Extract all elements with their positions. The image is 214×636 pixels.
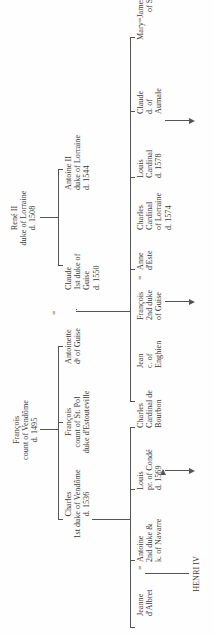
sibling-bar-bourbon — [130, 428, 131, 628]
node-jean-enghien: Jeanc. ofEnghien — [136, 328, 164, 368]
connector — [130, 489, 135, 490]
sibling-bar-lorraine — [58, 170, 59, 266]
arrow-head-icon — [189, 299, 195, 305]
connector — [58, 346, 63, 347]
genealogy-diagram: Françoiscount of Vendômed. 1495 René IId… — [0, 0, 214, 636]
connector — [40, 429, 58, 430]
connector — [76, 309, 77, 310]
connector — [130, 177, 135, 178]
connector — [130, 111, 135, 112]
connector — [130, 560, 135, 561]
connector — [130, 627, 135, 628]
marriage-symbol: = — [136, 275, 145, 280]
connector — [130, 37, 135, 38]
marriage-symbol: = — [136, 565, 145, 570]
connector — [130, 427, 135, 428]
sibling-bar-vendome — [58, 347, 59, 520]
node-jeanne-albret: Jeanned'Albret — [136, 576, 154, 616]
descent-line-henri — [145, 573, 189, 574]
node-antoine-ii: Antoine IIduke of Lorrained. 1544 — [64, 120, 92, 190]
node-charles-lorraine: CharlesCardinalof Lorrained. 1574 — [136, 180, 173, 230]
connector — [58, 169, 63, 170]
connector — [130, 269, 135, 270]
node-rene-ii: René IIduke of Lorrained. 1508 — [10, 172, 38, 264]
node-louis-conde: Louispr. of Condéd. 1569 — [136, 434, 164, 490]
descent-line — [92, 519, 130, 520]
continuation-arrow-line — [165, 301, 189, 302]
node-mary: Mary=James V of Scotland — [136, 68, 154, 88]
arrow-head-icon — [189, 118, 195, 124]
continuation-arrow-line — [165, 120, 189, 121]
node-anne-este: Anned'Este — [136, 236, 154, 270]
connector — [40, 217, 58, 218]
node-henri-iv: HENRI IV — [192, 542, 201, 606]
connector — [58, 422, 63, 423]
continuation-arrow — [163, 470, 164, 471]
connector — [130, 401, 135, 402]
marriage-descent-line — [76, 311, 130, 312]
node-francois-guise: François2nd dukeof Guise — [136, 280, 164, 320]
node-charles-bourbon: CharlesCardinal deBourbon — [136, 372, 164, 428]
arrow-head-icon — [189, 468, 195, 474]
connector — [58, 519, 63, 520]
node-claude-guise: Claude1st duke ofGuised. 1550 — [64, 240, 101, 290]
continuation-arrow-line — [165, 470, 189, 471]
node-charles-vendome: Charles1st duke of Vendômed. 1536 — [64, 464, 92, 544]
node-antoine-navarre: Antoine2nd duke &k. of Navarre — [136, 502, 164, 562]
node-louis-cardinal: LouisCardinald. 1578 — [136, 132, 164, 178]
marriage-symbol: = — [50, 310, 59, 315]
sibling-bar-guise — [130, 38, 131, 402]
node-antoinette: Antoinettedˢ of Guise — [64, 304, 82, 364]
node-francois-st-pol: Françoiscount of St. Polduke d'Estoutevi… — [64, 380, 92, 464]
connector — [58, 265, 63, 266]
node-francois-vendome: Françoiscount of Vendômed. 1495 — [12, 384, 40, 476]
